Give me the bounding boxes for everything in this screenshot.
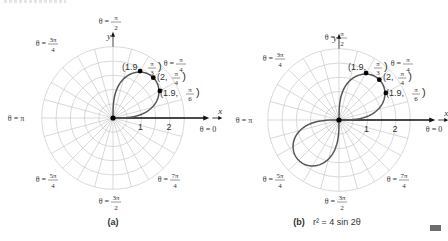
angle-label-num: 3π [49,36,57,44]
plotted-point [151,75,156,80]
panel-equation: r² = 4 sin 2θ [313,217,361,227]
angle-label-num: 7π [171,172,179,180]
radial-tick-label: 2 [166,122,171,132]
panel-caption: (b) [293,217,305,227]
angle-label-den: 4 [179,66,183,74]
grid-spoke [289,70,339,120]
polar-axis-arrow-icon [203,116,209,121]
angle-label-text: θ = π [8,114,24,123]
point-label-r: (2, [157,72,168,82]
angle-label-num: 3π [112,194,120,202]
point-label-r: (1.9, [348,62,366,72]
angle-label-den: 4 [173,182,177,190]
angle-label-num: π [179,56,183,64]
grid-spoke [339,120,401,156]
grid-spoke [321,120,339,189]
grid-spoke [63,118,113,168]
angle-label-prefix: θ = [325,33,336,42]
grid-spoke [303,58,339,120]
point-label-theta-den: 6 [188,95,192,103]
x-axis-arrow-icon [444,118,448,122]
grid-spoke [113,49,131,118]
angle-label: θ =5π4 [36,172,58,190]
plotted-point [377,77,382,82]
grid-spoke [77,56,113,118]
angle-label-text: θ = 0 [200,125,216,134]
radial-tick-label: 2 [392,124,397,134]
angle-label-den: 4 [402,182,406,190]
end-of-example-marker [430,225,441,231]
angle-label-prefix: θ = [164,59,175,68]
point-label-theta-num: π [400,70,404,78]
polar-axis-arrow-icon [429,118,435,123]
point-label-theta-den: 4 [400,79,404,87]
point-label-theta-den: 6 [414,95,418,103]
grid-spoke [113,68,163,118]
grid-spoke [51,118,113,154]
angle-label-prefix: θ = [325,197,336,206]
angle-label-den: 4 [278,182,282,190]
angle-label: θ =3π4 [263,51,285,69]
angle-label-den: 4 [51,182,55,190]
point-label-theta-num: π [414,86,418,94]
angle-label-num: 5π [276,172,284,180]
grid-spoke [63,68,113,118]
point-label-close: ) [384,60,388,72]
grid-spoke [289,120,339,170]
angle-label-prefix: θ = [36,39,47,48]
grid-spoke [44,118,113,136]
angle-label-num: π [340,30,344,38]
grid-spoke [113,118,131,187]
angle-label: θ = 0 [200,125,216,134]
grid-spoke [51,82,113,118]
angle-label: θ = π [8,114,24,123]
grid-spoke [113,118,175,154]
grid-spoke [95,49,113,118]
angle-label-num: 7π [400,172,408,180]
angle-label-den: 4 [278,61,282,69]
point-label-r: (2, [383,72,394,82]
polar-figure: xy12(1.9, π3)(2, π4)(1.9, π6)θ =π2θ =3π4… [0,0,448,241]
panel-a-polar-graph: xy12(1.9, π3)(2, π4)(1.9, π6)θ =π2θ =3π4… [8,14,222,227]
angle-label-num: 3π [338,194,346,202]
panel-b-polar-graph: xy12(1.9, π3)(2, π4)(1.9, π6)θ =π2θ =3π4… [236,30,448,227]
angle-label: θ =π2 [99,14,121,32]
x-axis-label: x [443,108,448,118]
point-label-close: ) [422,86,426,98]
angle-label: θ =3π4 [36,36,58,54]
angle-label-den: 4 [406,66,410,74]
x-axis-label: x [217,106,222,116]
grid-spoke [339,70,389,120]
angle-label-text: θ = 0 [426,125,442,134]
grid-spoke [339,120,375,182]
point-label-theta-num: π [150,60,154,68]
point-label-r: (1.9, [386,88,404,98]
panel-caption: (a) [108,217,119,227]
radial-tick-label: 1 [138,122,143,132]
point-label-theta-num: π [188,86,192,94]
grid-spoke [113,100,182,118]
grid-spoke [270,102,339,120]
angle-label-text: θ = π [236,116,252,125]
point-label-theta-num: π [174,70,178,78]
grid-spoke [44,100,113,118]
angle-label-prefix: θ = [263,175,274,184]
angle-label-prefix: θ = [158,175,169,184]
angle-label-num: π [406,56,410,64]
radial-tick-label: 1 [364,124,369,134]
angle-label-prefix: θ = [391,59,402,68]
point-label-close: ) [158,60,162,72]
angle-label-den: 2 [114,24,118,32]
angle-label: θ =3π2 [99,194,121,212]
angle-label-num: 3π [276,51,284,59]
grid-spoke [339,102,408,120]
angle-label: θ = π [236,116,252,125]
point-label-r: (1.9, [160,88,178,98]
point-label-theta-den: 4 [174,79,178,87]
grid-spoke [339,120,357,189]
grid-spoke [277,84,339,120]
point-label-theta-num: π [376,60,380,68]
grid-spoke [95,118,113,187]
point-label-r: (1.9, [122,62,140,72]
origin-point [336,117,341,122]
